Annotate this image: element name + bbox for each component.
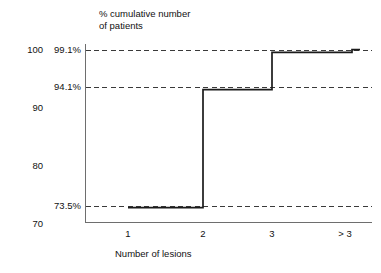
x-axis-title: Number of lesions xyxy=(115,248,192,260)
x-tick-label-2: 2 xyxy=(183,229,223,239)
x-tick-label-1: 1 xyxy=(108,229,148,239)
x-tick-label-gt-3: > 3 xyxy=(325,229,365,239)
x-tick-label-3: 3 xyxy=(252,229,292,239)
chart-figure: % cumulative number of patients 100 90 8… xyxy=(0,0,381,273)
axis-spines xyxy=(86,44,373,223)
step-line-series xyxy=(128,50,360,208)
